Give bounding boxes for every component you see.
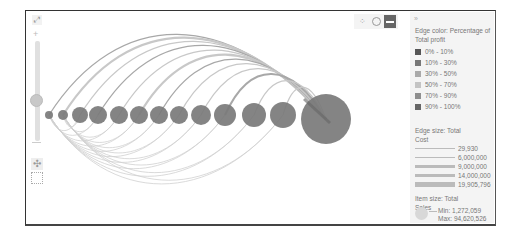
legend-label: 19,905,796 bbox=[458, 181, 491, 188]
zoom-in-button[interactable]: + bbox=[33, 29, 38, 39]
swatch-icon bbox=[415, 60, 421, 66]
collapse-legend-icon[interactable]: » bbox=[414, 15, 418, 22]
scatter-mode-icon[interactable]: ⁘ bbox=[356, 15, 368, 28]
edge-size-item: 14,000,000 bbox=[415, 172, 491, 179]
node-circle[interactable] bbox=[270, 102, 296, 128]
legend-panel: » Edge color: Percentage of Total profit… bbox=[410, 12, 494, 223]
legend-label: 6,000,000 bbox=[458, 154, 487, 161]
legend-label: 30% - 50% bbox=[425, 70, 457, 77]
edge-color-item: 0% - 10% bbox=[415, 48, 453, 55]
edge-color-item: 10% - 30% bbox=[415, 59, 457, 66]
arc-diagram-canvas[interactable] bbox=[26, 11, 410, 224]
edge-size-item: 19,905,796 bbox=[415, 181, 491, 188]
edge-size-item: 9,000,000 bbox=[415, 163, 487, 170]
expand-icon[interactable]: ⤢ bbox=[32, 15, 42, 25]
edge-size-item: 6,000,000 bbox=[415, 154, 487, 161]
edge-arc bbox=[49, 115, 283, 184]
edge-size-item: 29,930 bbox=[415, 145, 478, 152]
circle-mode-icon[interactable] bbox=[370, 15, 382, 28]
edge-color-item: 30% - 50% bbox=[415, 70, 457, 77]
swatch-icon bbox=[415, 49, 421, 55]
edge-size-line bbox=[415, 174, 455, 178]
edge-color-title: Edge color: Percentage of Total profit bbox=[415, 26, 495, 44]
swatch-icon bbox=[415, 104, 421, 110]
node-circle[interactable] bbox=[58, 110, 68, 120]
edge-size-line bbox=[415, 182, 455, 187]
edge-size-line bbox=[415, 165, 455, 168]
swatch-icon bbox=[415, 71, 421, 77]
pan-icon[interactable]: ✣ bbox=[31, 158, 43, 170]
edge-color-item: 70% - 90% bbox=[415, 92, 457, 99]
legend-label: 9,000,000 bbox=[458, 163, 487, 170]
item-max-label: Max: 94,620,526 bbox=[438, 215, 486, 222]
select-region-icon[interactable] bbox=[31, 172, 43, 184]
node-circle[interactable] bbox=[89, 106, 107, 124]
legend-label: 50% - 70% bbox=[425, 81, 457, 88]
edge-size-title: Edge size: Total Cost bbox=[415, 126, 475, 144]
legend-label: 90% - 100% bbox=[425, 103, 460, 110]
legend-label: 10% - 30% bbox=[425, 59, 457, 66]
legend-label: 0% - 10% bbox=[425, 48, 453, 55]
edge-color-item: 50% - 70% bbox=[415, 81, 457, 88]
arc-mode-icon[interactable] bbox=[384, 15, 396, 28]
swatch-icon bbox=[415, 93, 421, 99]
edge-size-line bbox=[415, 148, 455, 149]
edge-size-line bbox=[415, 157, 455, 159]
node-circle[interactable] bbox=[72, 107, 88, 123]
node-circle[interactable] bbox=[242, 103, 266, 127]
item-size-circle bbox=[415, 207, 428, 220]
zoom-out-button[interactable] bbox=[32, 142, 41, 143]
node-circle[interactable] bbox=[150, 106, 168, 124]
node-circle[interactable] bbox=[191, 105, 211, 125]
node-circle[interactable] bbox=[110, 106, 128, 124]
item-size-tick bbox=[429, 211, 437, 212]
item-min-label: Min: 1,272,059 bbox=[438, 207, 481, 214]
node-circle[interactable] bbox=[170, 106, 188, 124]
node-circle[interactable] bbox=[45, 111, 53, 119]
legend-label: 14,000,000 bbox=[458, 172, 491, 179]
layout-mode-group: ⁘ bbox=[354, 14, 398, 29]
swatch-icon bbox=[415, 82, 421, 88]
arc-diagram bbox=[26, 11, 410, 224]
visualization-frame: ⤢ + ✣ ⁘ » Edge color: Percentage of Tota… bbox=[25, 10, 496, 226]
node-circle[interactable] bbox=[214, 104, 236, 126]
legend-label: 29,930 bbox=[458, 145, 478, 152]
edge-color-item: 90% - 100% bbox=[415, 103, 460, 110]
zoom-slider[interactable] bbox=[35, 41, 40, 141]
node-circle[interactable] bbox=[130, 106, 148, 124]
legend-label: 70% - 90% bbox=[425, 92, 457, 99]
zoom-slider-thumb[interactable] bbox=[30, 94, 43, 107]
